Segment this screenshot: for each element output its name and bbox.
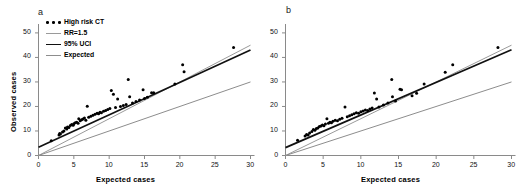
legend-item-high-risk-ct: High risk CT bbox=[46, 17, 104, 27]
y-tick-label: 0 bbox=[274, 151, 278, 158]
x-tick-label: 5 bbox=[321, 161, 325, 168]
panel-a: a Observed cases Expected cases High ris… bbox=[0, 0, 261, 189]
y-tick-label: 50 bbox=[270, 28, 278, 35]
x-tick-label: 10 bbox=[105, 161, 113, 168]
x-tick-label: 15 bbox=[140, 161, 148, 168]
x-tick-label: 30 bbox=[507, 161, 515, 168]
x-tick-label: 10 bbox=[357, 161, 365, 168]
x-tick-label: 5 bbox=[72, 161, 76, 168]
y-axis-title: Observed cases bbox=[9, 72, 18, 132]
y-tick-label: 20 bbox=[270, 101, 278, 108]
legend-label-uci: 95% UCI bbox=[64, 40, 91, 48]
legend-marker-line-expected-icon bbox=[46, 51, 61, 59]
plot-area-b bbox=[261, 0, 522, 189]
panel-b: b Expected cases 01020304050051015202530 bbox=[261, 0, 522, 189]
legend-item-expected: Expected bbox=[46, 50, 104, 60]
legend-marker-line-uci-icon bbox=[46, 40, 61, 48]
legend-label-rr: RR=1.5 bbox=[64, 29, 87, 37]
x-tick-label: 0 bbox=[36, 161, 40, 168]
x-axis-title-b: Expected cases bbox=[361, 175, 420, 184]
figure-container: a Observed cases Expected cases High ris… bbox=[0, 0, 522, 189]
legend-label-high-risk-ct: High risk CT bbox=[64, 18, 104, 26]
x-tick-label: 25 bbox=[470, 161, 478, 168]
y-tick-label: 30 bbox=[270, 77, 278, 84]
legend-item-rr: RR=1.5 bbox=[46, 28, 104, 38]
legend-marker-line-rr-icon bbox=[46, 29, 61, 37]
y-tick-label: 10 bbox=[23, 126, 31, 133]
y-tick-label: 30 bbox=[23, 77, 31, 84]
legend-label-expected: Expected bbox=[64, 51, 94, 59]
x-tick-label: 30 bbox=[246, 161, 254, 168]
y-tick-label: 40 bbox=[270, 52, 278, 59]
x-tick-label: 20 bbox=[432, 161, 440, 168]
x-tick-label: 25 bbox=[211, 161, 219, 168]
y-tick-label: 10 bbox=[270, 126, 278, 133]
x-tick-label: 0 bbox=[283, 161, 287, 168]
y-tick-label: 20 bbox=[23, 101, 31, 108]
x-tick-label: 15 bbox=[394, 161, 402, 168]
x-tick-label: 20 bbox=[176, 161, 184, 168]
x-axis-title-a: Expected cases bbox=[96, 175, 155, 184]
legend: High risk CT RR=1.5 95% UCI Expected bbox=[46, 17, 104, 61]
y-tick-label: 50 bbox=[23, 28, 31, 35]
y-tick-label: 0 bbox=[27, 151, 31, 158]
legend-item-uci: 95% UCI bbox=[46, 39, 104, 49]
legend-marker-dots-icon bbox=[46, 18, 61, 26]
y-tick-label: 40 bbox=[23, 52, 31, 59]
